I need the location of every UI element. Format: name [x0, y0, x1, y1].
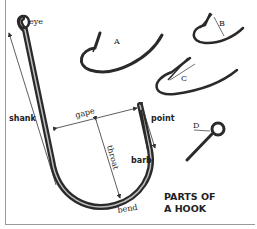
- hook-variant-a: A: [81, 33, 162, 72]
- label-c: C: [181, 74, 187, 83]
- hook-variant-d: D: [187, 121, 224, 160]
- gape-arrow: [57, 108, 137, 128]
- label-barb: barb: [131, 156, 152, 165]
- title-line-2: A HOOK: [164, 203, 207, 214]
- label-eye: eye: [29, 17, 43, 26]
- label-a: A: [113, 37, 120, 46]
- hook-diagram: eye shank gape throat point barb bend A …: [0, 0, 257, 229]
- label-shank: shank: [9, 114, 37, 123]
- hook-variant-b: B: [194, 14, 243, 43]
- title-line-1: PARTS OF: [164, 191, 216, 202]
- label-d: D: [193, 121, 199, 130]
- hook-variant-c: C: [157, 58, 237, 94]
- label-point: point: [151, 114, 175, 123]
- label-gape: gape: [74, 106, 96, 120]
- label-b: B: [219, 19, 225, 28]
